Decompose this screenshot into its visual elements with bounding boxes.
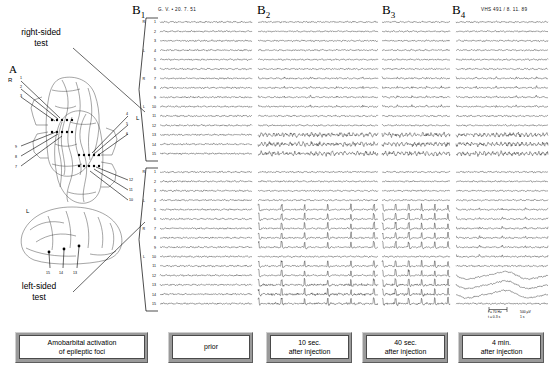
caption-box-prior: prior	[168, 332, 253, 363]
channel-side-L-10: L	[143, 105, 145, 109]
eeg-trace	[258, 40, 378, 42]
eeg-trace	[160, 31, 252, 33]
eeg-trace	[160, 87, 252, 89]
eeg-trace	[160, 96, 252, 98]
channel-number-8: 8	[154, 86, 156, 90]
eeg-trace	[382, 171, 450, 173]
eeg-trace	[258, 124, 378, 126]
channel-number-11: 11	[152, 114, 156, 118]
eeg-trace	[160, 106, 252, 108]
channel-number-7: 7	[154, 77, 156, 81]
eeg-trace	[258, 269, 378, 277]
eeg-trace	[258, 222, 378, 230]
channel-number-2: 2	[154, 180, 156, 184]
eeg-trace	[456, 290, 548, 299]
caption-40sec-text: 40 sec.after injection	[385, 338, 427, 357]
eeg-trace	[258, 151, 378, 157]
caption-box-4min: 4 min.after injection	[458, 332, 544, 363]
channel-number-3: 3	[154, 39, 156, 43]
channel-number-9: 9	[154, 246, 156, 250]
eeg-trace	[258, 256, 378, 258]
eeg-trace	[258, 288, 378, 296]
channel-number-4: 4	[154, 199, 156, 203]
eeg-trace	[160, 209, 252, 211]
eeg-trace	[382, 40, 450, 42]
eeg-trace	[456, 151, 548, 157]
channel-side-L-4: L	[143, 49, 145, 53]
eeg-trace	[258, 241, 378, 249]
calibration-scale: 500 µV 1 s	[520, 310, 531, 320]
eeg-trace	[382, 222, 450, 230]
caption-10sec-text: 10 sec.after injection	[289, 338, 331, 357]
eeg-trace	[456, 125, 548, 127]
eeg-trace	[456, 21, 548, 23]
eeg-trace	[382, 181, 450, 183]
eeg-trace	[258, 278, 378, 286]
eeg-trace	[382, 68, 450, 70]
caption-box-10sec: 10 sec.after injection	[266, 332, 352, 363]
channel-number-1: 1	[154, 170, 156, 174]
eeg-trace	[456, 40, 548, 42]
eeg-trace	[160, 78, 252, 80]
eeg-trace	[160, 153, 252, 155]
eeg-trace	[382, 142, 450, 147]
eeg-trace	[456, 132, 548, 137]
eeg-block-right-sided: R123L456R789L101112131415	[139, 18, 158, 161]
channel-number-10: 10	[152, 255, 156, 259]
caption-box-40sec: 40 sec.after injection	[362, 332, 448, 363]
eeg-trace	[382, 269, 450, 277]
eeg-trace	[258, 171, 378, 173]
eeg-trace	[258, 204, 378, 212]
eeg-trace	[456, 190, 548, 192]
eeg-trace	[382, 232, 450, 239]
calibration-filter: f = 70 Hz t = 0.3 s	[488, 310, 502, 320]
eeg-trace	[382, 241, 450, 249]
eeg-trace	[258, 105, 378, 108]
eeg-trace	[258, 232, 378, 240]
eeg-trace	[258, 298, 378, 306]
eeg-trace	[382, 105, 450, 108]
channel-number-14: 14	[152, 293, 156, 297]
caption-prior-text: prior	[204, 342, 218, 351]
eeg-trace	[258, 261, 378, 268]
eeg-trace	[382, 96, 450, 98]
eeg-trace	[456, 95, 548, 98]
eeg-trace	[456, 181, 548, 183]
eeg-trace	[160, 115, 252, 117]
channel-number-13: 13	[152, 133, 156, 137]
calibration-filter-low: t = 0.3 s	[488, 315, 502, 320]
caption-4min-text: 4 min.after injection	[481, 338, 523, 357]
eeg-trace	[258, 141, 378, 146]
eeg-trace	[456, 142, 548, 147]
eeg-trace	[160, 134, 252, 136]
eeg-trace	[160, 218, 252, 220]
eeg-trace	[456, 105, 548, 108]
channel-number-1: 1	[154, 20, 156, 24]
eeg-trace	[160, 246, 252, 248]
eeg-trace	[382, 49, 450, 51]
eeg-trace	[456, 271, 548, 280]
eeg-trace	[258, 190, 378, 192]
eeg-trace	[160, 180, 252, 182]
eeg-trace	[382, 125, 450, 127]
eeg-trace	[456, 77, 548, 80]
channel-number-11: 11	[152, 264, 156, 268]
eeg-trace	[382, 21, 450, 23]
channel-number-15: 15	[152, 302, 156, 306]
eeg-trace	[160, 40, 252, 42]
eeg-trace	[160, 49, 252, 51]
eeg-trace	[160, 143, 252, 145]
eeg-trace	[258, 49, 378, 51]
eeg-trace	[258, 115, 378, 117]
eeg-trace	[382, 288, 450, 297]
eeg-trace	[456, 68, 548, 70]
eeg-trace	[160, 265, 252, 267]
eeg-trace	[382, 76, 450, 79]
channel-number-14: 14	[152, 143, 156, 147]
caption-main-text: Amobarbital activationof epileptic foci	[48, 338, 117, 357]
eeg-trace	[456, 254, 548, 257]
eeg-trace	[160, 284, 252, 286]
eeg-trace	[456, 49, 548, 51]
eeg-traces-grid: R123L456R789L101112131415R123L456R789L10…	[0, 0, 553, 330]
eeg-trace	[160, 228, 252, 230]
